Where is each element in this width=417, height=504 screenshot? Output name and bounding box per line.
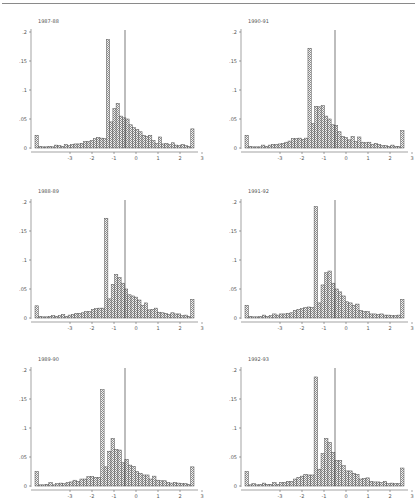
- histogram-panel-1991-92: 1991-92 0.05.1.15.2-3-2-10123: [210, 170, 415, 335]
- histogram-bar: [259, 316, 262, 318]
- x-tick-label: 0: [344, 155, 347, 161]
- histogram-bar: [61, 146, 64, 148]
- histogram-bar: [374, 143, 377, 148]
- histogram-plot: 0.05.1.15.2-3-2-10123: [0, 338, 205, 503]
- histogram-bar: [387, 484, 390, 486]
- histogram-bar: [308, 48, 311, 148]
- y-tick-label: .15: [229, 228, 237, 234]
- histogram-bar: [110, 122, 113, 148]
- histogram-bar: [95, 309, 98, 318]
- y-tick-label: .15: [229, 396, 237, 402]
- x-tick-label: 1: [366, 325, 369, 331]
- histogram-bar: [148, 310, 151, 318]
- histogram-bar: [191, 467, 194, 486]
- histogram-bar: [118, 277, 121, 318]
- histogram-bar: [280, 483, 283, 486]
- histogram-bar: [139, 132, 142, 148]
- histogram-bar: [54, 145, 57, 148]
- histogram-bar: [376, 315, 379, 318]
- histogram-bar: [273, 483, 276, 486]
- histogram-bar: [111, 438, 114, 486]
- histogram-bar: [78, 313, 81, 318]
- histogram-bar: [387, 315, 390, 318]
- y-tick-label: 0: [234, 483, 237, 489]
- histogram-bar: [52, 316, 55, 318]
- histogram-bar: [349, 471, 352, 486]
- histogram-bar: [171, 143, 174, 148]
- histogram-plot: 0.05.1.15.2-3-2-10123: [210, 338, 415, 503]
- x-tick-label: -3: [278, 325, 283, 331]
- histogram-bar: [149, 479, 152, 486]
- histogram-bar: [285, 142, 288, 148]
- histogram-bar: [42, 317, 45, 318]
- x-tick-label: 3: [200, 325, 203, 331]
- histogram-bar: [293, 310, 296, 318]
- x-tick-label: -2: [90, 325, 95, 331]
- histogram-bar: [380, 314, 383, 318]
- histogram-bar: [335, 460, 338, 486]
- histogram-bar: [38, 316, 41, 318]
- histogram-bar: [321, 106, 324, 148]
- histogram-bar: [84, 142, 87, 148]
- histogram-bar: [295, 139, 298, 148]
- histogram-bar: [394, 146, 397, 148]
- histogram-bar: [42, 485, 45, 486]
- histogram-bar: [255, 317, 258, 318]
- x-tick-label: -3: [278, 493, 283, 499]
- histogram-bar: [338, 460, 341, 486]
- histogram-bar: [94, 477, 97, 486]
- histogram-bar: [394, 316, 397, 318]
- histogram-bar: [373, 314, 376, 318]
- y-tick-label: .15: [229, 58, 237, 64]
- x-tick-label: 3: [410, 155, 413, 161]
- histogram-bar: [48, 316, 51, 318]
- histogram-bar: [83, 479, 86, 486]
- x-tick-label: -2: [90, 493, 95, 499]
- histogram-bar: [269, 316, 272, 318]
- x-tick-label: 3: [410, 325, 413, 331]
- histogram-bar: [156, 480, 159, 486]
- histogram-bar: [121, 283, 124, 318]
- x-tick-label: -3: [68, 493, 73, 499]
- histogram-bar: [265, 146, 268, 148]
- histogram-bar: [168, 145, 171, 148]
- y-tick-label: .15: [19, 396, 27, 402]
- histogram-plot: 0.05.1.15.2-3-2-10123: [0, 0, 205, 165]
- histogram-bar: [258, 147, 261, 148]
- histogram-bar: [248, 316, 251, 318]
- histogram-bar: [359, 310, 362, 318]
- histogram-bar: [356, 474, 359, 486]
- histogram-bar: [62, 315, 65, 318]
- histogram-bar: [108, 451, 111, 486]
- histogram-bar: [397, 146, 400, 148]
- histogram-bar: [376, 482, 379, 486]
- y-tick-label: .05: [229, 286, 237, 292]
- y-tick-label: .1: [232, 425, 237, 431]
- histogram-bar: [331, 452, 334, 486]
- histogram-bar: [358, 137, 361, 148]
- histogram-bar: [318, 303, 321, 318]
- histogram-bar: [348, 140, 351, 148]
- histogram-bar: [101, 390, 104, 486]
- histogram-bar: [315, 106, 318, 148]
- histogram-bar: [291, 139, 294, 148]
- histogram-bar: [314, 207, 317, 318]
- histogram-bar: [153, 476, 156, 486]
- histogram-bar: [252, 317, 255, 318]
- histogram-bar: [321, 285, 324, 318]
- histogram-bar: [245, 135, 248, 148]
- histogram-bar: [325, 116, 328, 148]
- histogram-bar: [384, 146, 387, 148]
- histogram-bar: [338, 132, 341, 148]
- histogram-bar: [104, 467, 107, 486]
- histogram-bar: [98, 308, 101, 318]
- histogram-bar: [371, 145, 374, 148]
- histogram-bar: [300, 476, 303, 486]
- histogram-bar: [93, 139, 96, 148]
- x-tick-label: 1: [366, 155, 369, 161]
- histogram-bar: [129, 125, 132, 148]
- histogram-bar: [75, 313, 78, 318]
- histogram-bar: [55, 316, 58, 318]
- histogram-bar: [356, 304, 359, 318]
- histogram-bar: [115, 449, 118, 486]
